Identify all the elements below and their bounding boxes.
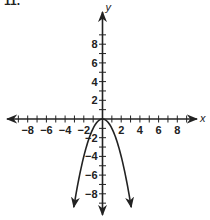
x-tick-label: −8: [21, 124, 34, 136]
x-tick-label: 2: [118, 124, 124, 136]
y-tick-label: −6: [85, 169, 98, 181]
x-tick-label: −6: [40, 124, 53, 136]
y-tick-label: 2: [91, 94, 97, 106]
x-axis-label: x: [199, 112, 206, 124]
x-tick-label: 4: [137, 124, 144, 136]
y-tick-label: −8: [85, 188, 98, 200]
x-tick-label: 6: [156, 124, 162, 136]
x-tick-label: 8: [174, 124, 180, 136]
y-tick-label: −4: [85, 150, 98, 162]
y-tick-label: 4: [91, 76, 98, 88]
y-tick-label: 8: [91, 38, 97, 50]
x-tick-label: −4: [59, 124, 72, 136]
y-axis-label: y: [105, 1, 113, 13]
y-tick-label: 6: [91, 57, 97, 69]
coordinate-plane: xy−8−6−4−224688642−2−4−6−8: [0, 0, 210, 220]
